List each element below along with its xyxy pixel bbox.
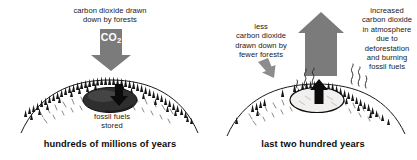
right-caption: last two hundred years — [219, 139, 407, 149]
left-co2-label: CO2 — [90, 31, 132, 45]
figure-carbon-cycle-comparison: { "figure": { "title": "Carbon dioxide: … — [0, 0, 417, 160]
panel-hundreds-of-millions-of-years: carbon dioxide drawn down by forests — [0, 0, 208, 160]
fossil-fuel-deposit — [83, 88, 137, 113]
small-down-arrow-icon — [258, 58, 276, 78]
left-scene-graphics — [0, 0, 208, 160]
right-co2-subscript: 2 — [355, 44, 359, 53]
left-co2-subscript: 2 — [117, 36, 121, 45]
right-scene-graphics — [209, 0, 417, 160]
left-caption: hundreds of millions of years — [14, 139, 206, 149]
right-co2-text: CO — [339, 39, 355, 51]
left-deposit-label: fossil fuels stored — [74, 112, 150, 131]
panel-last-two-hundred-years: less carbon dioxide drawn down by fewer … — [209, 0, 417, 160]
left-co2-text: CO — [101, 31, 117, 43]
right-co2-label: CO2 — [326, 39, 372, 53]
